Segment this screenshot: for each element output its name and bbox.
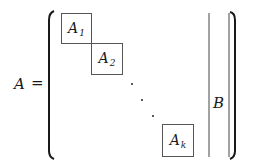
block-a2: A2: [91, 43, 123, 75]
block-b-label: B: [213, 96, 224, 111]
matrix-brackets: [0, 0, 255, 168]
block-matrix-equation: A = A1 A2 Ak B: [0, 0, 255, 168]
right-bracket-icon: [230, 12, 235, 159]
diagonal-dot-1: [131, 83, 133, 85]
block-ak-label: Ak: [163, 132, 193, 150]
block-a1-label: A1: [62, 20, 91, 38]
left-bracket-icon: [49, 11, 54, 159]
block-a1: A1: [61, 13, 92, 44]
block-ak: Ak: [162, 124, 194, 157]
diagonal-dot-2: [141, 99, 143, 101]
diagonal-dot-3: [152, 115, 154, 117]
block-a2-label: A2: [92, 50, 122, 68]
